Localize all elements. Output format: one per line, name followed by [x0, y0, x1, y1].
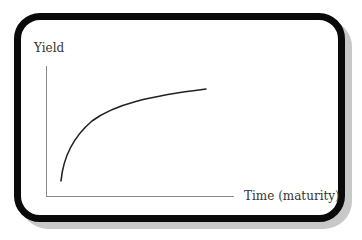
yield-curve-line — [61, 89, 206, 181]
x-axis-label: Time (maturity) — [244, 189, 340, 203]
y-axis-label: Yield — [34, 41, 64, 55]
